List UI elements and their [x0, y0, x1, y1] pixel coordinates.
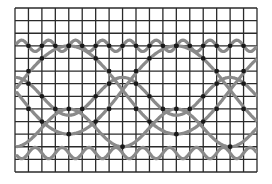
intersection-dot: [147, 94, 152, 99]
intersection-dot: [134, 81, 139, 86]
intersection-dot: [93, 56, 98, 61]
intersection-dot: [66, 43, 71, 48]
intersection-dot: [134, 69, 139, 74]
intersection-dot: [201, 43, 206, 48]
intersection-dot: [241, 43, 246, 48]
intersection-dot: [26, 43, 31, 48]
intersection-dot: [39, 56, 44, 61]
intersection-dot: [228, 43, 233, 48]
intersection-dot: [214, 81, 219, 86]
intersection-dot: [66, 107, 71, 112]
intersection-dot: [53, 107, 58, 112]
intersection-dot: [26, 81, 31, 86]
intersection-dot: [160, 107, 165, 112]
intersection-dot: [39, 43, 44, 48]
intersection-dot: [107, 43, 112, 48]
intersection-dot: [93, 43, 98, 48]
intersection-dot: [93, 94, 98, 99]
intersection-dot: [26, 69, 31, 74]
intersection-dot: [241, 69, 246, 74]
intersection-dot: [39, 94, 44, 99]
intersection-dot: [201, 119, 206, 124]
intersection-dot: [241, 81, 246, 86]
intersection-dot: [80, 43, 85, 48]
intersection-dot: [147, 43, 152, 48]
intersection-dot: [174, 107, 179, 112]
intersection-dot: [187, 107, 192, 112]
intersection-dot: [214, 107, 219, 112]
intersection-dot: [214, 43, 219, 48]
intersection-dot: [107, 69, 112, 74]
intersection-dot: [39, 119, 44, 124]
intersection-dot: [201, 56, 206, 61]
intersection-dot: [120, 43, 125, 48]
intersection-dot: [107, 81, 112, 86]
intersection-dot: [26, 107, 31, 112]
intersection-dot: [187, 43, 192, 48]
intersection-dot: [66, 132, 71, 137]
waveform-grid-diagram: [0, 0, 272, 184]
intersection-dot: [201, 94, 206, 99]
intersection-dot: [228, 144, 233, 149]
intersection-dot: [53, 43, 58, 48]
intersection-dot: [107, 107, 112, 112]
intersection-dot: [147, 119, 152, 124]
intersection-dot: [241, 107, 246, 112]
intersection-dot: [120, 144, 125, 149]
intersection-dot: [147, 56, 152, 61]
intersection-dot: [174, 43, 179, 48]
intersection-dot: [80, 107, 85, 112]
intersection-dot: [93, 119, 98, 124]
intersection-dot: [160, 43, 165, 48]
intersection-dot: [134, 107, 139, 112]
intersection-dot: [134, 43, 139, 48]
intersection-dot: [214, 69, 219, 74]
intersection-dot: [174, 132, 179, 137]
